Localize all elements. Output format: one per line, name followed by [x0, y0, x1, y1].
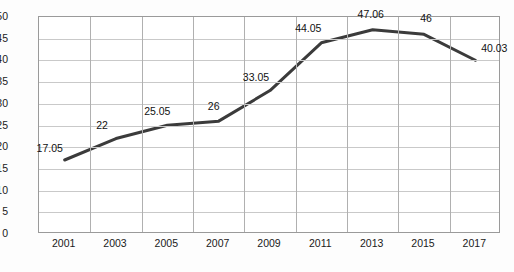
data-point-label: 25.05 [144, 106, 170, 117]
data-point-label: 17.05 [37, 143, 63, 154]
y-tick-label: 40 [0, 54, 8, 65]
data-point-label: 44.05 [295, 23, 321, 34]
y-tick-label: 30 [0, 98, 8, 109]
data-point-label: 33.05 [243, 71, 269, 82]
y-tick-label: 50 [0, 11, 8, 22]
y-tick-label: 35 [0, 76, 8, 87]
y-tick-label: 10 [0, 184, 8, 195]
x-axis: 200120032005200720092011201320152017 [38, 238, 500, 256]
y-tick-label: 45 [0, 32, 8, 43]
y-tick-label: 20 [0, 141, 8, 152]
y-tick-label: 15 [0, 163, 8, 174]
y-tick-label: 25 [0, 119, 8, 130]
x-tick-label: 2017 [444, 238, 504, 249]
data-point-label: 22 [96, 119, 108, 130]
data-point-label: 40.03 [481, 43, 507, 54]
data-point-label: 46 [420, 13, 432, 24]
y-tick-label: 0 [0, 228, 8, 239]
data-label-group: 17.052225.052633.0544.0547.064640.03 [38, 16, 500, 233]
line-chart: 05101520253035404550 17.052225.052633.05… [0, 0, 514, 272]
data-point-label: 26 [208, 101, 220, 112]
y-tick-label: 5 [0, 206, 8, 217]
data-point-label: 47.06 [358, 9, 384, 20]
